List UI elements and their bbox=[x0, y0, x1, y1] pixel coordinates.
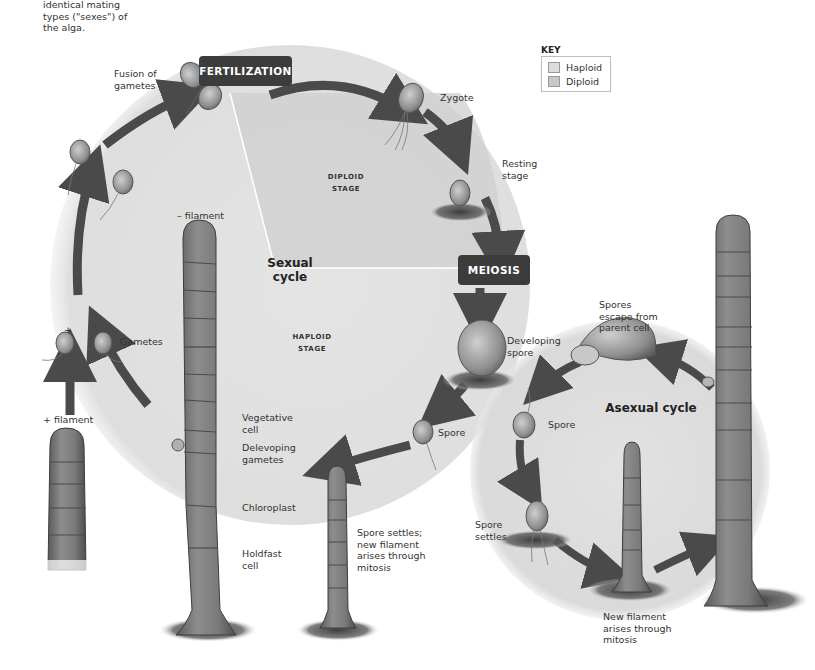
fertilization-box: FERTILIZATION bbox=[199, 56, 292, 86]
fusion-of-gametes-label: Fusion of gametes bbox=[114, 68, 157, 91]
chloroplast-label: Chloroplast bbox=[242, 502, 296, 514]
key-box: Haploid Diploid bbox=[541, 56, 611, 92]
haploid-stage-label: HAPLOID STAGE bbox=[282, 331, 342, 355]
spore-label-sexual: Spore bbox=[438, 427, 465, 439]
diploid-swatch bbox=[548, 76, 560, 87]
key-item-diploid: Diploid bbox=[548, 74, 602, 88]
intro-text: identical mating types ("sexes") of the … bbox=[43, 0, 127, 34]
key-item-haploid: Haploid bbox=[548, 60, 602, 74]
minus-sign-label: – bbox=[92, 320, 97, 332]
plus-sign-label: + bbox=[64, 324, 72, 336]
chlamydomonas-life-cycle-diagram: identical mating types ("sexes") of the … bbox=[0, 0, 815, 670]
spore-settles-label: Spore settles bbox=[475, 519, 507, 542]
spore-settles-new-filament-label: Spore settles; new filament arises throu… bbox=[357, 527, 425, 573]
haploid-swatch bbox=[548, 62, 560, 73]
key-item-label: Haploid bbox=[566, 62, 602, 73]
developing-gametes-label: Delevoping gametes bbox=[242, 442, 296, 465]
resting-stage-label: Resting stage bbox=[502, 158, 537, 181]
sexual-cycle-title: Sexual cycle bbox=[262, 256, 318, 284]
meiosis-box: MEIOSIS bbox=[458, 255, 530, 285]
diploid-stage-label: DIPLOID STAGE bbox=[316, 171, 376, 195]
new-filament-mitosis-label: New filament arises through mitosis bbox=[603, 611, 671, 646]
key-item-label: Diploid bbox=[566, 76, 599, 87]
key-title: KEY bbox=[541, 45, 611, 55]
spore-label-asexual: Spore bbox=[548, 419, 575, 431]
plus-filament-illustration bbox=[46, 428, 90, 590]
minus-filament-label: – filament bbox=[177, 210, 224, 222]
developing-spore-label: Developing spore bbox=[507, 335, 561, 358]
zygote-label: Zygote bbox=[440, 92, 474, 104]
plus-filament-label: + filament bbox=[43, 414, 93, 426]
legend-key: KEY Haploid Diploid bbox=[541, 45, 611, 92]
spores-escape-label: Spores escape from parent cell bbox=[599, 299, 658, 334]
gametes-label: Gametes bbox=[120, 336, 163, 348]
holdfast-cell-label: Holdfast cell bbox=[242, 548, 281, 571]
asexual-cycle-title: Asexual cycle bbox=[596, 401, 706, 415]
vegetative-cell-label: Vegetative cell bbox=[242, 412, 293, 435]
